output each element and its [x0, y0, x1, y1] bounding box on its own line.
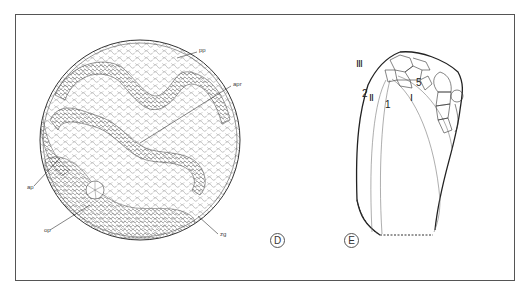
- figure-drawing: [0, 0, 530, 296]
- panel-label-e: E: [344, 233, 359, 248]
- label-pp: pp: [199, 47, 206, 53]
- label-num-2: 2: [362, 88, 368, 99]
- label-zg: zg: [220, 231, 226, 237]
- label-roman-1: Ⅰ: [410, 92, 413, 103]
- panel-e-body: [357, 52, 463, 235]
- label-apr: apr: [233, 81, 242, 87]
- panel-d-sphere: [34, 40, 240, 240]
- label-roman-2: Ⅱ: [369, 92, 374, 103]
- label-num-1: 1: [385, 99, 391, 110]
- label-num-5: 5: [416, 77, 422, 88]
- label-ap: ap: [27, 184, 34, 190]
- label-op: op: [44, 227, 51, 233]
- panel-label-d: D: [270, 233, 285, 248]
- label-roman-3: Ⅲ: [356, 58, 363, 69]
